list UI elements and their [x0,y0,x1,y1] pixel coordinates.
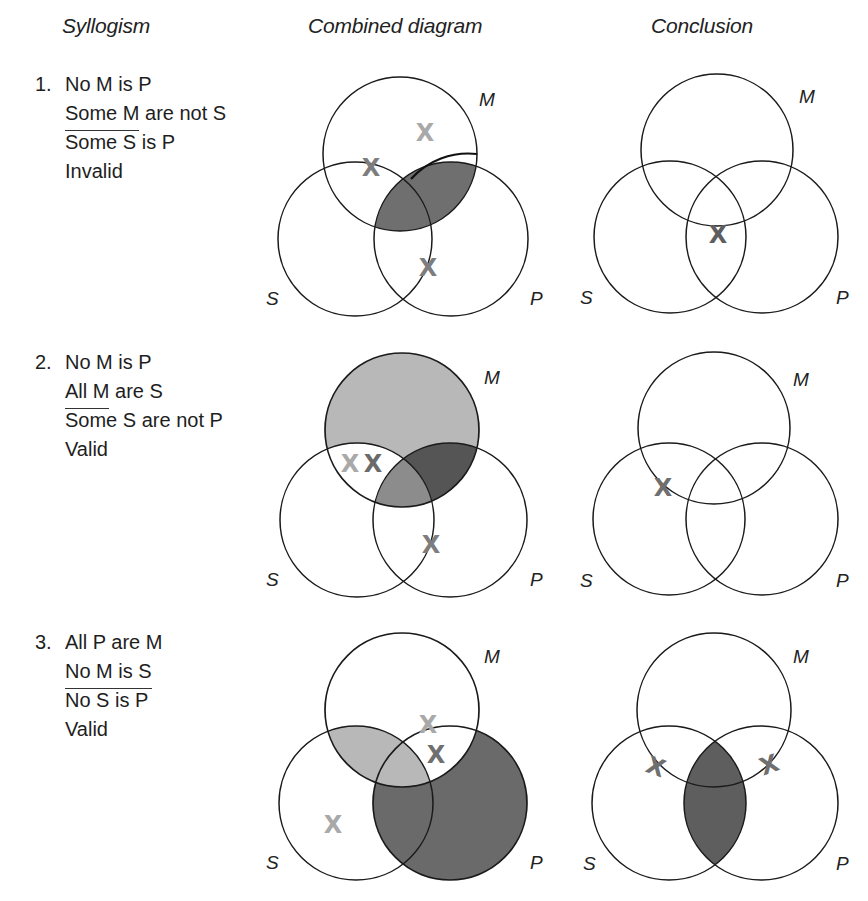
shaded-region-m-and-p [373,443,527,597]
label-m: M [484,646,500,667]
x-mark: X [427,741,446,769]
x-mark: X [756,748,783,781]
label-m: M [799,86,815,107]
label-s: S [266,288,279,309]
shaded-region-s-and-p [684,726,838,880]
x-mark: X [642,751,669,784]
label-m: M [479,89,495,110]
x-mark: X [364,450,383,478]
shaded-region-m-and-p [374,162,528,316]
x-mark: X [324,811,343,839]
row3-combined-diagram: X X X M S P [266,633,543,880]
label-p: P [530,569,543,590]
x-mark: X [422,531,441,559]
label-m: M [484,367,500,388]
row2-conclusion-diagram: X M S P [580,352,849,595]
label-s: S [266,569,279,590]
label-s: S [580,287,593,308]
x-mark: X [419,254,438,282]
label-s: S [583,853,596,874]
x-mark: X [416,119,435,147]
x-mark: X [362,154,381,182]
label-p: P [530,852,543,873]
x-mark: X [419,711,438,739]
row1-conclusion-diagram: X M S P [580,74,849,313]
row1-combined-diagram: X X X M S P [266,77,543,316]
label-m: M [793,369,809,390]
label-s: S [580,570,593,591]
row2-combined-diagram: X X X M S P [266,353,543,597]
x-mark: X [709,221,728,249]
label-p: P [836,287,849,308]
circle-m [641,74,793,226]
x-mark: X [654,474,673,502]
row3-conclusion-diagram: X X M S P [583,633,849,880]
label-p: P [836,570,849,591]
circle-s [593,443,745,595]
x-mark: X [341,450,360,478]
venn-diagrams: X X X M S P X M S P X X X M S P [0,0,868,901]
label-p: P [836,853,849,874]
label-m: M [793,646,809,667]
circle-p [686,443,838,595]
label-s: S [266,852,279,873]
label-p: P [530,288,543,309]
